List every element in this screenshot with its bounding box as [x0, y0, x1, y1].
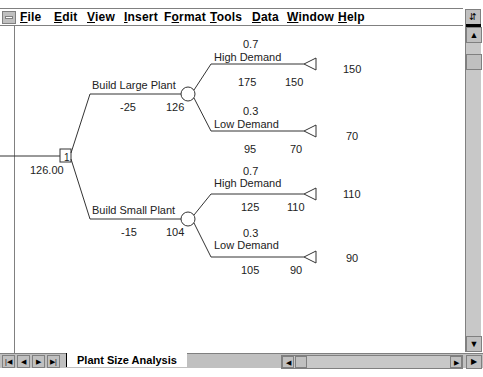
- scroll-thumb[interactable]: [466, 54, 482, 70]
- decision-node-label: 1: [64, 152, 70, 163]
- menu-help[interactable]: Help: [338, 10, 365, 24]
- branch-ev-small: 104: [166, 226, 184, 238]
- menu-file[interactable]: File: [20, 10, 41, 24]
- last-sheet-button[interactable]: ▶|: [47, 355, 60, 368]
- outcome-prob: 0.3: [243, 105, 258, 117]
- branch-label-large: Build Large Plant: [92, 79, 176, 91]
- terminal-payoff: 90: [346, 252, 358, 264]
- branch-cost-large: -25: [120, 101, 136, 113]
- outcome-value: 95: [244, 143, 256, 155]
- scroll-left-button[interactable]: ◀: [282, 356, 294, 368]
- h-scroll-thumb[interactable]: [295, 356, 307, 368]
- horizontal-scrollbar[interactable]: ◀ ▶: [281, 355, 463, 369]
- outcome-label: Low Demand: [214, 118, 279, 130]
- terminal-payoff: 110: [343, 188, 361, 200]
- scroll-corner-right-button[interactable]: ▶: [466, 355, 482, 369]
- terminal-payoff: 150: [343, 63, 361, 75]
- menu-bar: File Edit View Insert Format Tools Data …: [0, 8, 463, 26]
- outcome-label: Low Demand: [214, 239, 279, 251]
- outcome-value: 105: [241, 264, 259, 276]
- menu-insert[interactable]: Insert: [124, 10, 158, 24]
- scroll-down-button[interactable]: ▼: [466, 336, 482, 352]
- terminal-payoff: 70: [346, 130, 358, 142]
- restore-window-button[interactable]: ⇵: [465, 9, 481, 25]
- decision-tree: [0, 25, 465, 353]
- outcome-prob: 0.7: [243, 38, 258, 50]
- sheet-tab-bar: |◀ ◀ ▶ ▶| Plant Size Analysis ◀ ▶ ▶: [0, 353, 483, 368]
- menu-tools[interactable]: Tools: [210, 10, 242, 24]
- vertical-scrollbar[interactable]: ▲ ▼: [465, 24, 481, 352]
- branch-label-small: Build Small Plant: [92, 204, 175, 216]
- branch-cost-small: -15: [121, 226, 137, 238]
- system-menu-button[interactable]: [2, 11, 16, 24]
- outcome-label: High Demand: [214, 177, 281, 189]
- outcome-value: 125: [241, 201, 259, 213]
- menu-view[interactable]: View: [87, 10, 115, 24]
- first-sheet-button[interactable]: |◀: [2, 355, 15, 368]
- menu-window[interactable]: Window: [287, 10, 334, 24]
- menu-format[interactable]: Format: [164, 10, 206, 24]
- branch-ev-large: 126: [166, 101, 184, 113]
- outcome-prob: 0.3: [243, 227, 258, 239]
- outcome-value: 175: [238, 76, 256, 88]
- outcome-cum: 90: [290, 264, 302, 276]
- outcome-prob: 0.7: [243, 165, 258, 177]
- outcome-cum: 70: [290, 143, 302, 155]
- root-value: 126.00: [30, 164, 64, 176]
- scroll-up-button[interactable]: ▲: [466, 27, 482, 43]
- sheet-tab-plant-size-analysis[interactable]: Plant Size Analysis: [66, 353, 187, 367]
- outcome-cum: 150: [285, 76, 303, 88]
- prev-sheet-button[interactable]: ◀: [17, 355, 30, 368]
- next-sheet-button[interactable]: ▶: [32, 355, 45, 368]
- menu-edit[interactable]: Edit: [54, 10, 77, 24]
- outcome-label: High Demand: [214, 51, 281, 63]
- menu-data[interactable]: Data: [252, 10, 279, 24]
- outcome-cum: 110: [287, 201, 305, 213]
- scroll-right-button[interactable]: ▶: [450, 356, 462, 368]
